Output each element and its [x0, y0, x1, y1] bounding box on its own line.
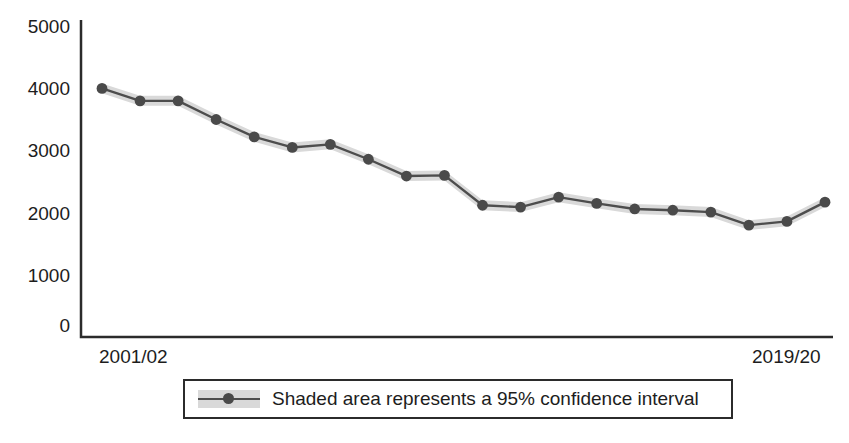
data-point-marker	[515, 202, 526, 213]
data-point-marker	[591, 198, 602, 209]
data-point-marker	[173, 95, 184, 106]
y-tick-label-5000: 5000	[0, 17, 70, 36]
data-point-markers	[97, 83, 831, 231]
data-point-marker	[401, 171, 412, 182]
chart-figure: 5000 4000 3000 2000 1000 0 2001/02 2019/…	[0, 0, 849, 443]
y-tick-label-4000: 4000	[0, 79, 70, 98]
chart-axes	[81, 20, 833, 337]
data-point-marker	[667, 205, 678, 216]
chart-legend: Shaded area represents a 95% confidence …	[183, 379, 733, 419]
x-tick-label-end: 2019/20	[752, 347, 821, 366]
data-point-marker	[553, 192, 564, 203]
data-point-marker	[477, 200, 488, 211]
data-point-marker	[325, 139, 336, 150]
data-point-marker	[249, 131, 260, 142]
data-point-marker	[782, 216, 793, 227]
y-tick-label-3000: 3000	[0, 141, 70, 160]
data-point-marker	[820, 197, 831, 208]
y-tick-label-1000: 1000	[0, 266, 70, 285]
data-point-marker	[363, 154, 374, 165]
confidence-interval-band	[102, 83, 825, 230]
x-tick-label-start: 2001/02	[99, 347, 168, 366]
legend-sample-swatch	[198, 388, 260, 410]
data-point-marker	[287, 142, 298, 153]
data-point-marker	[743, 220, 754, 231]
data-series-line	[102, 88, 825, 225]
y-tick-label-0: 0	[0, 316, 70, 335]
data-point-marker	[211, 114, 222, 125]
legend-marker-icon	[223, 393, 234, 404]
data-point-marker	[439, 170, 450, 181]
data-point-marker	[97, 83, 108, 94]
line-chart-plot	[0, 0, 849, 443]
y-tick-label-2000: 2000	[0, 204, 70, 223]
data-point-marker	[705, 207, 716, 218]
data-point-marker	[629, 204, 640, 215]
legend-label: Shaded area represents a 95% confidence …	[272, 388, 699, 410]
data-point-marker	[135, 95, 146, 106]
